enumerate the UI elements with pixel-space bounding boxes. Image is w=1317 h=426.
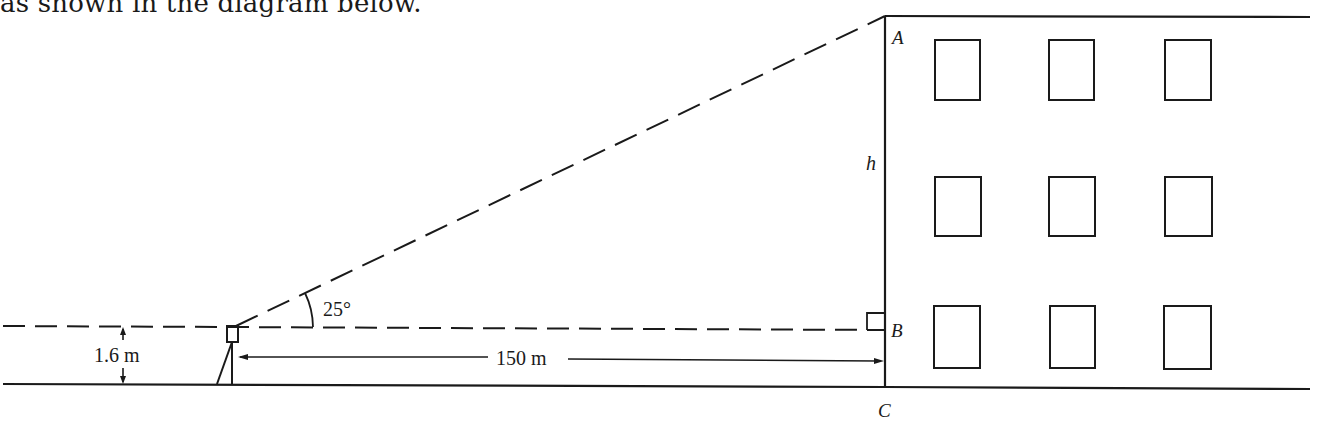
angle-of-elevation-diagram: A h B C 25° 1.6 m 150 m bbox=[0, 0, 1317, 426]
ground-line-right bbox=[885, 387, 1310, 389]
window bbox=[934, 306, 980, 368]
label-c: C bbox=[878, 400, 891, 421]
building-windows bbox=[934, 40, 1212, 369]
window bbox=[1049, 177, 1095, 236]
window bbox=[1164, 306, 1211, 369]
window bbox=[1165, 177, 1212, 236]
label-distance: 150 m bbox=[496, 347, 547, 369]
tripod-leg bbox=[217, 342, 232, 384]
window bbox=[1049, 40, 1094, 100]
line-of-sight bbox=[236, 16, 885, 326]
window bbox=[935, 177, 981, 236]
eye-level-dashed-line bbox=[3, 326, 885, 330]
label-angle: 25° bbox=[323, 298, 351, 320]
distance-dimension-right bbox=[568, 359, 878, 361]
window bbox=[1165, 40, 1211, 100]
label-instrument-height: 1.6 m bbox=[94, 344, 140, 366]
label-h: h bbox=[866, 152, 876, 174]
window bbox=[935, 40, 980, 100]
label-a: A bbox=[890, 27, 904, 48]
label-b: B bbox=[891, 320, 903, 341]
building-roof bbox=[885, 16, 1310, 17]
clinometer-box bbox=[227, 326, 238, 342]
window bbox=[1050, 306, 1095, 368]
angle-arc bbox=[305, 293, 313, 327]
ground-line bbox=[3, 384, 885, 387]
right-angle-marker bbox=[867, 313, 885, 330]
